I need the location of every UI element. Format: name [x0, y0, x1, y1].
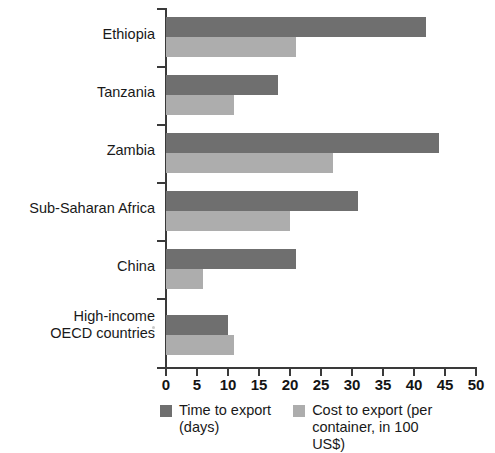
- x-axis-tick: [382, 367, 384, 376]
- legend-label-line2: (days): [179, 419, 271, 436]
- category-label-high-income-oecd-countries: High-income OECD countries: [0, 308, 155, 342]
- legend-label-line1: Cost to export (per: [312, 402, 447, 419]
- x-axis-tick: [165, 367, 167, 376]
- bar-cost-to-export: [166, 95, 234, 115]
- category-label-line1: Sub-Saharan Africa: [0, 200, 155, 217]
- bar-cost-to-export: [166, 269, 203, 289]
- legend-item-time-to-export: Time to export (days): [160, 402, 271, 436]
- bar-group-tanzania: [166, 66, 476, 124]
- category-label-line1: High-income: [0, 308, 155, 325]
- bar-time-to-export: [166, 17, 426, 37]
- x-axis-tick: [196, 367, 198, 376]
- x-axis-tick: [258, 367, 260, 376]
- bar-group-china: [166, 240, 476, 298]
- x-axis-tick: [320, 367, 322, 376]
- bar-group-zambia: [166, 124, 476, 182]
- bar-time-to-export: [166, 315, 228, 335]
- legend-label-line2: container, in 100 US$): [312, 419, 447, 453]
- chart-legend: Time to export (days) Cost to export (pe…: [160, 402, 447, 453]
- category-label-tanzania: Tanzania: [0, 84, 155, 101]
- category-label-line1: Ethiopia: [0, 26, 155, 43]
- x-axis-tick: [351, 367, 353, 376]
- x-axis-tick: [444, 367, 446, 376]
- bar-time-to-export: [166, 249, 296, 269]
- legend-label-cost-to-export: Cost to export (per container, in 100 US…: [312, 402, 447, 453]
- legend-label-time-to-export: Time to export (days): [179, 402, 271, 436]
- legend-swatch-icon: [160, 405, 172, 417]
- bar-group-ethiopia: [166, 8, 476, 66]
- category-label-line1: Zambia: [0, 142, 155, 159]
- category-label-china: China: [0, 258, 155, 275]
- bar-cost-to-export: [166, 37, 296, 57]
- x-axis-tick-label: 50: [456, 376, 495, 393]
- category-label-sub-saharan-africa: Sub-Saharan Africa: [0, 200, 155, 217]
- x-axis-tick: [289, 367, 291, 376]
- legend-item-cost-to-export: Cost to export (per container, in 100 US…: [293, 402, 447, 453]
- bar-group-high-income-oecd-countries: [166, 306, 476, 364]
- legend-swatch-icon: [293, 405, 305, 417]
- bar-time-to-export: [166, 191, 358, 211]
- plot-area: [166, 8, 476, 368]
- bar-chart-figure: Ethiopia Tanzania Zambia Sub-Saharan Afr…: [0, 0, 495, 453]
- x-axis-tick: [475, 367, 477, 376]
- category-label-line1: Tanzania: [0, 84, 155, 101]
- bar-cost-to-export: [166, 153, 333, 173]
- bar-time-to-export: [166, 133, 439, 153]
- legend-label-line1: Time to export: [179, 402, 271, 419]
- x-axis-tick: [227, 367, 229, 376]
- category-label-zambia: Zambia: [0, 142, 155, 159]
- x-axis-tick: [413, 367, 415, 376]
- category-label-line2: OECD countries: [0, 325, 155, 342]
- bar-cost-to-export: [166, 211, 290, 231]
- bar-time-to-export: [166, 75, 278, 95]
- category-label-line1: China: [0, 258, 155, 275]
- bar-group-sub-saharan-africa: [166, 182, 476, 240]
- category-label-ethiopia: Ethiopia: [0, 26, 155, 43]
- bar-cost-to-export: [166, 335, 234, 355]
